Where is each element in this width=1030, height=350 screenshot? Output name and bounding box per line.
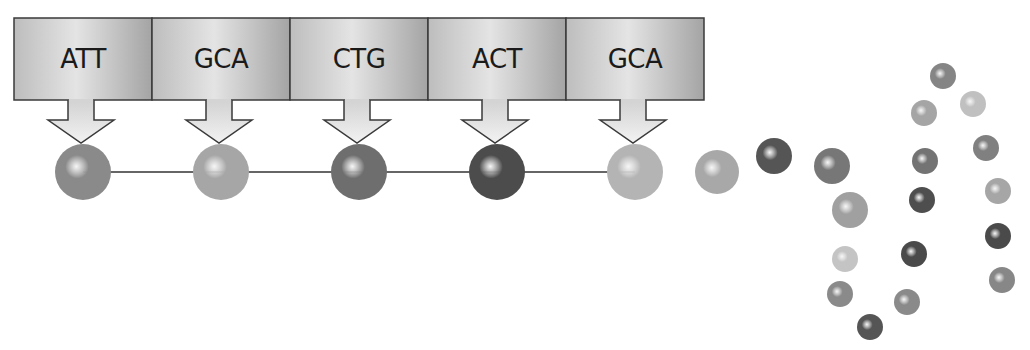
amino-acid-sphere bbox=[930, 63, 956, 89]
codon-label: ACT bbox=[472, 44, 522, 74]
amino-acid-sphere bbox=[331, 144, 387, 200]
amino-acid-sphere bbox=[469, 144, 525, 200]
amino-acid-sphere bbox=[827, 281, 853, 307]
down-arrow-icon bbox=[324, 100, 390, 143]
codon-row: ATTGCACTGACTGCA bbox=[14, 18, 704, 143]
down-arrow-icon bbox=[462, 100, 528, 143]
amino-acid-sphere bbox=[814, 148, 850, 184]
codon-label: CTG bbox=[333, 44, 386, 74]
amino-acid-sphere bbox=[832, 246, 858, 272]
amino-acid-sphere bbox=[607, 144, 663, 200]
codon-4: ACT bbox=[428, 18, 566, 143]
amino-acid-sphere bbox=[193, 144, 249, 200]
amino-acid-sphere bbox=[909, 187, 935, 213]
amino-acid-sphere bbox=[985, 178, 1011, 204]
down-arrow-icon bbox=[186, 100, 252, 143]
amino-acid-sphere bbox=[695, 150, 739, 194]
amino-acid-sphere bbox=[55, 144, 111, 200]
amino-acid-sphere bbox=[756, 138, 792, 174]
codon-3: CTG bbox=[290, 18, 428, 143]
codon-label: GCA bbox=[194, 44, 249, 74]
amino-acid-sphere bbox=[973, 135, 999, 161]
codon-label: GCA bbox=[608, 44, 663, 74]
amino-acid-sphere bbox=[912, 148, 938, 174]
amino-acid-sphere bbox=[857, 314, 883, 340]
amino-acid-sphere bbox=[911, 100, 937, 126]
amino-acid-sphere bbox=[989, 267, 1015, 293]
down-arrow-icon bbox=[600, 100, 666, 143]
codon-label: ATT bbox=[60, 44, 106, 74]
amino-acid-sphere bbox=[960, 91, 986, 117]
codon-2: GCA bbox=[152, 18, 290, 143]
amino-acid-sphere bbox=[901, 241, 927, 267]
amino-acid-sphere bbox=[894, 289, 920, 315]
amino-acid-sphere bbox=[832, 192, 868, 228]
down-arrow-icon bbox=[48, 100, 114, 143]
codon-1: ATT bbox=[14, 18, 152, 143]
amino-acid-sphere bbox=[985, 223, 1011, 249]
cropped-caption bbox=[60, 338, 700, 350]
codon-5: GCA bbox=[566, 18, 704, 143]
folding-protein-chain bbox=[695, 63, 1015, 340]
translation-diagram: ATTGCACTGACTGCA bbox=[0, 0, 1030, 350]
peptide-chain bbox=[55, 144, 663, 200]
